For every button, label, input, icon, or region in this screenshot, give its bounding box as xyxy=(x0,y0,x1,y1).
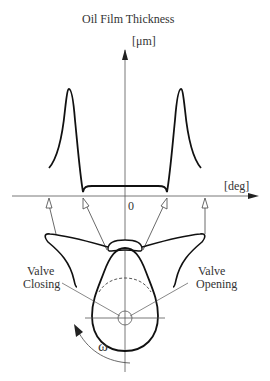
x-axis-arrow-icon xyxy=(248,193,259,199)
rotation-arrow-icon xyxy=(74,324,83,337)
chart-title: Oil Film Thickness xyxy=(82,13,174,26)
x-axis-unit: [deg] xyxy=(224,180,249,193)
y-axis-unit: [μm] xyxy=(132,35,156,48)
valve-closing-label-line2: Closing xyxy=(23,278,60,291)
leader-valve-opening xyxy=(130,283,188,316)
follower-cap xyxy=(108,240,142,251)
omega-label: ω xyxy=(98,340,108,353)
valve-opening-label-line2: Opening xyxy=(196,278,237,291)
y-axis-arrow-icon xyxy=(122,49,128,60)
origin-label: 0 xyxy=(128,200,134,213)
leader-valve-closing xyxy=(62,283,120,316)
